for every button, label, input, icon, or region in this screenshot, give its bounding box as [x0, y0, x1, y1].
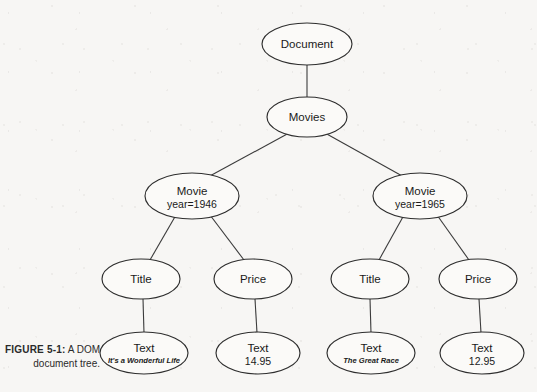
node-title-2: Title	[331, 259, 409, 299]
edge-movies-movie1946	[208, 133, 289, 177]
edge-price1-text	[255, 299, 257, 333]
node-label-movie-1965: Movie	[405, 185, 436, 197]
edge-title2-text	[370, 299, 371, 333]
node-text-title-1: TextIt's a Wonderful Life	[100, 332, 188, 374]
node-sublabel-text-title-2: The Great Race	[343, 356, 399, 365]
figure-caption-label: FIGURE 5-1:	[5, 344, 66, 355]
node-price-2: Price	[439, 259, 517, 299]
node-sublabel-text-title-1: It's a Wonderful Life	[108, 356, 181, 365]
node-label-price-1: Price	[240, 273, 266, 285]
node-sublabel-movie-1965: year=1965	[395, 198, 445, 210]
node-label-price-2: Price	[465, 273, 491, 285]
edge-movie1946-price1	[210, 215, 244, 260]
node-document: Document	[262, 23, 352, 65]
nodes-layer: DocumentMoviesMovieyear=1946Movieyear=19…	[100, 23, 524, 374]
edge-title1-text	[143, 299, 144, 333]
edge-price2-text	[479, 299, 481, 333]
node-movies: Movies	[267, 97, 347, 137]
node-label-movie-1946: Movie	[177, 185, 208, 197]
node-price-1: Price	[214, 259, 292, 299]
edge-movie1965-title2	[379, 215, 404, 260]
figure-caption-line2: document tree.	[33, 358, 100, 369]
node-label-title-2: Title	[359, 273, 380, 285]
node-label-text-price-2: Text	[471, 342, 493, 354]
node-label-movies: Movies	[289, 111, 326, 123]
node-sublabel-text-price-2: 12.95	[469, 355, 495, 367]
node-sublabel-movie-1946: year=1946	[167, 198, 217, 210]
node-label-title-1: Title	[130, 273, 151, 285]
node-label-text-title-2: Text	[360, 342, 382, 354]
node-text-price-2: Text12.95	[440, 332, 524, 374]
figure-caption: FIGURE 5-1: A DOM document tree.	[0, 343, 100, 370]
node-movie-1946: Movieyear=1946	[145, 173, 239, 219]
edge-movie1965-price2	[437, 215, 469, 260]
node-text-price-1: Text14.95	[216, 332, 300, 374]
node-movie-1965: Movieyear=1965	[373, 173, 467, 219]
edge-movies-movie1965	[325, 133, 404, 177]
edge-movie1946-title1	[150, 215, 176, 260]
node-label-document: Document	[281, 38, 334, 50]
figure-page: DocumentMoviesMovieyear=1946Movieyear=19…	[0, 0, 537, 392]
dom-tree-diagram: DocumentMoviesMovieyear=1946Movieyear=19…	[0, 0, 537, 392]
figure-caption-line1: A DOM	[68, 344, 100, 355]
node-label-text-price-1: Text	[247, 342, 269, 354]
node-title-1: Title	[102, 259, 180, 299]
node-sublabel-text-price-1: 14.95	[245, 355, 271, 367]
node-text-title-2: TextThe Great Race	[327, 332, 415, 374]
node-label-text-title-1: Text	[133, 342, 155, 354]
